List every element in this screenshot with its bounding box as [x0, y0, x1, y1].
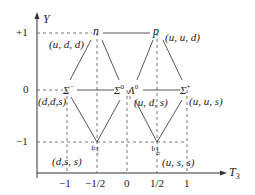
sigma-plus-quarks: (u, u, s)	[189, 96, 223, 107]
lambda-zero-label: Λ0	[128, 84, 138, 96]
x-tick-0: 0	[124, 178, 130, 189]
proton-quarks: (u, u, d)	[165, 32, 200, 43]
sigma-minus-quarks: (d,d,s)	[38, 96, 66, 107]
y-axis-label: Y	[43, 13, 50, 25]
x-axis-label-subscript: 3	[236, 172, 240, 181]
sigma-zero-label: Σ0	[114, 84, 124, 96]
lambda-zero-quarks: (u, d, s)	[134, 97, 168, 108]
proton-label: p	[153, 25, 159, 37]
x-axis-arrow-icon	[220, 171, 227, 176]
neutron-quarks: (u, d, d)	[49, 39, 84, 50]
xi-minus-quarks: (d,s, s)	[52, 156, 82, 167]
y-tick-0: 0	[23, 84, 29, 95]
x-axis-label-text: T	[229, 165, 236, 179]
octet-lines	[70, 33, 182, 142]
xi-minus-charge: −	[95, 151, 101, 155]
neutron-label: n	[93, 25, 99, 37]
lambda-zero-symbol: Λ	[128, 84, 135, 96]
xi-minus-label: Ξ−	[90, 146, 101, 156]
sigma-minus-label: Σ−	[63, 84, 74, 96]
sigma-plus-label: Σ+	[180, 84, 191, 96]
xi-zero-quarks: (u, s, s)	[162, 157, 194, 168]
x-tick-minus-half: −1/2	[85, 178, 105, 189]
sigma-plus-charge: +	[187, 83, 191, 91]
y-tick-plus1: +1	[16, 27, 28, 38]
sigma-minus-charge: −	[70, 83, 75, 91]
sigma-zero-charge: 0	[121, 83, 125, 91]
xi-zero-label: Ξ0	[150, 146, 161, 155]
y-axis-arrow-icon	[35, 12, 40, 19]
x-tick-1: 1	[184, 178, 190, 189]
x-tick-minus1: −1	[59, 178, 71, 189]
lambda-zero-charge: 0	[135, 83, 139, 91]
y-tick-minus1: −1	[16, 136, 28, 147]
xi-zero-charge: 0	[155, 152, 161, 155]
x-axis-label: T3	[229, 166, 240, 181]
x-tick-half: 1/2	[150, 178, 164, 189]
